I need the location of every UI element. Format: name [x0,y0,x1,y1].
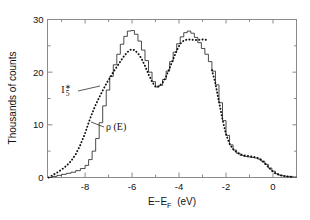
series-curve-1 [49,40,209,178]
svg-text:E−EF (eV): E−EF (eV) [148,196,196,210]
x-axis-title-unit: (eV) [177,196,196,207]
x-axis-major-ticks [85,20,273,178]
data-series-layer [49,31,297,178]
x-axis-minor-ticks [62,20,297,178]
y-tick-label: 30 [33,14,44,25]
chart-figure: -8-6-4-20 0102030 Thousands of counts E−… [0,0,310,220]
series-curve-0 [49,31,297,178]
y-tick-label: 10 [33,119,44,130]
y-axis-major-ticks [48,20,297,178]
y-tick-label: 0 [38,172,43,183]
photoemission-spectrum-plot: -8-6-4-20 0102030 Thousands of counts E−… [0,0,310,220]
x-tick-label: -2 [222,181,230,192]
plot-frame [48,20,297,178]
x-axis-title-text: E−E [148,196,168,207]
x-tick-label: 0 [270,181,275,192]
series-curve-2 [212,70,293,177]
x-axis-tick-labels: -8-6-4-20 [81,181,276,192]
y-tick-label: 20 [33,67,44,78]
is-series-label: I∗5 [61,83,70,98]
x-axis-title: E−EF (eV) [148,196,196,210]
x-tick-label: -4 [175,181,183,192]
y-axis-tick-labels: 0102030 [33,14,44,183]
is-label-leader-line [78,86,100,91]
is-label-subscript: 5 [66,89,70,98]
x-tick-label: -6 [128,181,136,192]
x-tick-label: -8 [81,181,89,192]
y-axis-title: Thousands of counts [7,52,18,145]
rho-series-label: ρ (E) [106,121,126,133]
y-axis-title-text: Thousands of counts [7,52,18,145]
